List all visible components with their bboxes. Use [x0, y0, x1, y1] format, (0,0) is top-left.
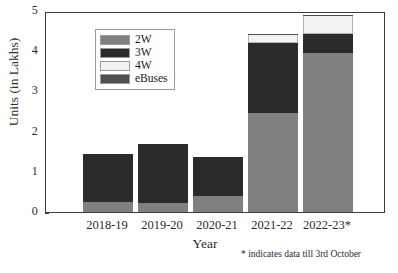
bar-segment-2w — [138, 203, 188, 212]
legend-label-3w: 3W — [135, 47, 152, 59]
y-axis-tick-label: 4 — [32, 44, 38, 56]
legend-item-3w: 3W — [100, 47, 168, 59]
bar-segment-3w — [138, 144, 188, 203]
bar-segment-3w — [83, 154, 133, 202]
y-axis-tick-label: 2 — [32, 125, 38, 137]
chart-annotation: * indicates data till 3rd October — [241, 249, 361, 259]
legend-item-2w: 2W — [100, 34, 168, 46]
bar-segment-2w — [303, 53, 353, 212]
bar-segment-3w — [248, 43, 298, 113]
legend-label-2w: 2W — [135, 34, 152, 46]
legend-swatch-4w — [100, 61, 130, 71]
x-axis-tick-label: 2022-23* — [289, 218, 365, 233]
bar-segment-ebuses — [248, 34, 298, 35]
y-axis-tick-label: 5 — [32, 4, 38, 16]
x-axis-title: Year — [175, 236, 235, 252]
y-axis-tick-label: 3 — [32, 84, 38, 96]
plot-area: 2W 3W 4W eBuses — [45, 12, 385, 213]
bar-segment-2w — [83, 202, 133, 212]
bar-segment-4w — [303, 15, 353, 34]
bar-segment-3w — [193, 157, 243, 196]
y-axis-title: Units (in Lakhs) — [6, 2, 22, 162]
chart-legend: 2W 3W 4W eBuses — [95, 29, 175, 90]
bar-segment-3w — [303, 34, 353, 53]
legend-item-ebuses: eBuses — [100, 73, 168, 85]
bar-segment-2w — [193, 196, 243, 212]
bar-segment-4w — [248, 34, 298, 43]
bar-segment-2w — [248, 113, 298, 212]
y-axis-tick-label: 0 — [32, 205, 38, 217]
legend-swatch-2w — [100, 35, 130, 45]
y-axis-tick-label: 1 — [32, 165, 38, 177]
legend-item-4w: 4W — [100, 60, 168, 72]
legend-label-4w: 4W — [135, 60, 152, 72]
legend-swatch-3w — [100, 48, 130, 58]
legend-label-ebuses: eBuses — [135, 73, 168, 85]
legend-swatch-ebuses — [100, 74, 130, 84]
